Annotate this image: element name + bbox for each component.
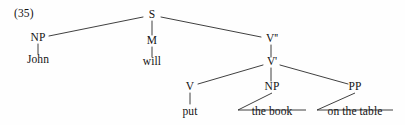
- terminal-john: John: [27, 54, 49, 66]
- syntax-tree-figure: (35) S NP M V'' V' V NP PP John will put…: [0, 0, 405, 125]
- node-np-object: NP: [265, 81, 280, 93]
- terminal-will: will: [143, 56, 161, 68]
- terminal-put: put: [183, 106, 198, 118]
- node-pp: PP: [349, 81, 362, 93]
- edge-v-single-bar-to-v: [198, 65, 263, 84]
- terminal-the-book: the book: [252, 106, 293, 118]
- node-v: V: [186, 81, 194, 93]
- node-m: M: [147, 35, 157, 47]
- node-v-double-bar: V'': [266, 33, 278, 45]
- edge-v-single-bar-to-pp: [280, 65, 348, 84]
- node-np-subject: NP: [31, 32, 46, 44]
- edge-s-to-v-double-bar: [161, 17, 261, 37]
- terminal-on-the-table: on the table: [328, 106, 383, 118]
- example-number: (35): [14, 8, 34, 20]
- edge-s-to-np-subject: [49, 17, 143, 36]
- node-v-single-bar: V': [267, 56, 277, 68]
- node-s: S: [149, 9, 156, 21]
